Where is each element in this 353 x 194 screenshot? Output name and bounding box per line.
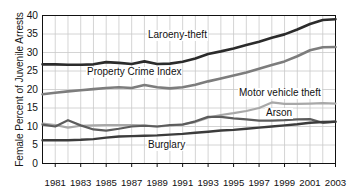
property-crime-index-label: Property Crime Index	[86, 67, 182, 78]
burglary-label: Burglary	[147, 140, 186, 151]
larceny-theft-label: Laroeny-theft	[147, 30, 208, 41]
series-line	[43, 122, 336, 141]
chart-figure: Female Percent of Juvenile Arrests 05101…	[0, 0, 353, 194]
arson-label: Arson	[265, 108, 293, 119]
motor-vehicle-theft-label: Motor vehicle theft	[238, 88, 322, 99]
